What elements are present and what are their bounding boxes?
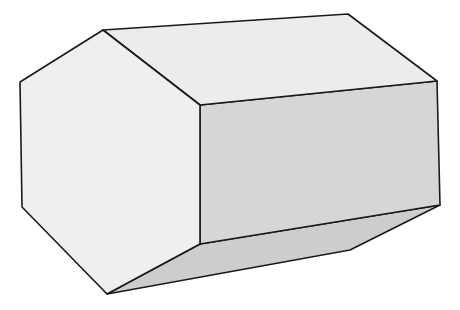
prism-canvas <box>0 0 460 310</box>
hexagonal-prism-diagram <box>0 0 460 310</box>
